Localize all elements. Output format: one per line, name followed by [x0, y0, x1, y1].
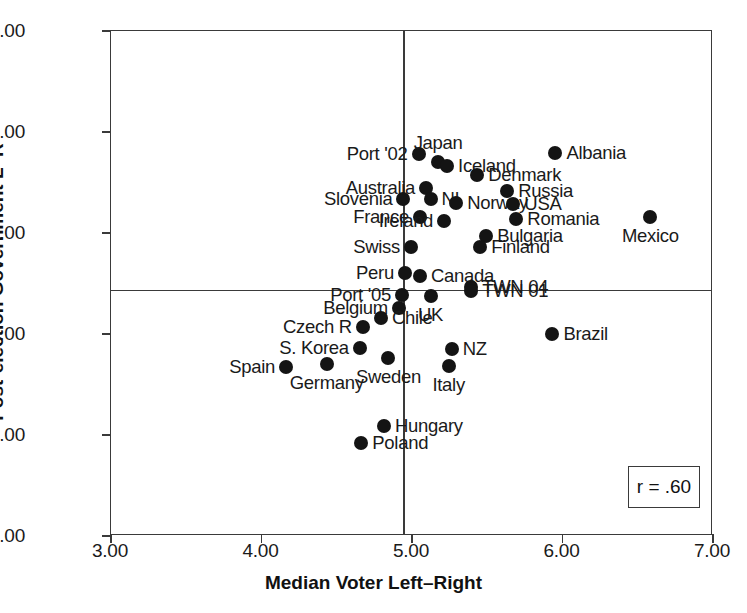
correlation-annotation-box: r = .60	[628, 466, 700, 508]
x-axis-tick-label: 3.00	[92, 540, 128, 562]
data-point-label: Ireland	[379, 212, 433, 231]
horizontal-reference-line	[111, 290, 711, 292]
data-point	[356, 320, 370, 334]
data-point	[449, 196, 463, 210]
data-point	[395, 288, 409, 302]
scatter-plot-figure: 0.002.004.006.008.0010.003.004.005.006.0…	[0, 0, 747, 613]
data-point	[506, 197, 520, 211]
y-axis-tick	[102, 434, 111, 436]
data-point	[643, 210, 657, 224]
data-point	[404, 240, 418, 254]
data-point	[545, 327, 559, 341]
data-point	[398, 266, 412, 280]
data-point	[279, 360, 293, 374]
x-axis-tick-label: 7.00	[694, 540, 730, 562]
data-point	[424, 289, 438, 303]
data-point-label: Poland	[372, 434, 428, 453]
data-point	[437, 214, 451, 228]
data-point-label: Peru	[356, 264, 394, 283]
data-point-label: Spain	[229, 358, 275, 377]
data-point-label: Swiss	[353, 238, 400, 257]
x-axis-tick-label: 5.00	[393, 540, 429, 562]
data-point-label: NZ	[463, 340, 487, 359]
data-point-label: Germany	[290, 374, 364, 393]
data-point	[442, 359, 456, 373]
data-point-label: Albania	[566, 143, 626, 162]
data-point-label: Port '02	[347, 144, 408, 163]
data-point	[320, 357, 334, 371]
data-point-label: Czech R	[283, 318, 352, 337]
y-axis-title: Post-election Government L–R	[0, 72, 8, 492]
x-axis-tick-label: 6.00	[543, 540, 579, 562]
x-axis-title: Median Voter Left–Right	[0, 572, 747, 594]
data-point	[354, 436, 368, 450]
data-point	[413, 269, 427, 283]
data-point-label: TWN 01	[482, 281, 548, 300]
data-point	[445, 342, 459, 356]
y-axis-tick-label: 10.00	[0, 20, 25, 42]
y-axis-tick-label: 0.00	[0, 525, 25, 547]
data-point	[473, 240, 487, 254]
data-point	[396, 192, 410, 206]
data-point	[424, 192, 438, 206]
data-point-label: Sweden	[356, 368, 421, 387]
data-point-label: Japan	[414, 134, 463, 153]
data-point-label: Finland	[491, 238, 550, 257]
data-point-label: Brazil	[563, 325, 607, 344]
data-point	[470, 168, 484, 182]
vertical-reference-line	[403, 31, 405, 534]
data-point	[353, 341, 367, 355]
y-axis-tick	[102, 232, 111, 234]
y-axis-tick	[102, 30, 111, 32]
y-axis-tick	[102, 131, 111, 133]
data-point-label: Italy	[432, 376, 464, 395]
data-point	[548, 146, 562, 160]
data-point	[464, 284, 478, 298]
data-point-label: Mexico	[622, 227, 679, 246]
data-point	[440, 159, 454, 173]
y-axis-tick	[102, 333, 111, 335]
data-point-label: S. Korea	[279, 339, 349, 358]
plot-area	[110, 30, 712, 535]
data-point	[381, 351, 395, 365]
data-point-label: Chile	[392, 309, 433, 328]
correlation-text: r = .60	[637, 476, 691, 498]
x-axis-tick-label: 4.00	[242, 540, 278, 562]
data-point	[374, 311, 388, 325]
